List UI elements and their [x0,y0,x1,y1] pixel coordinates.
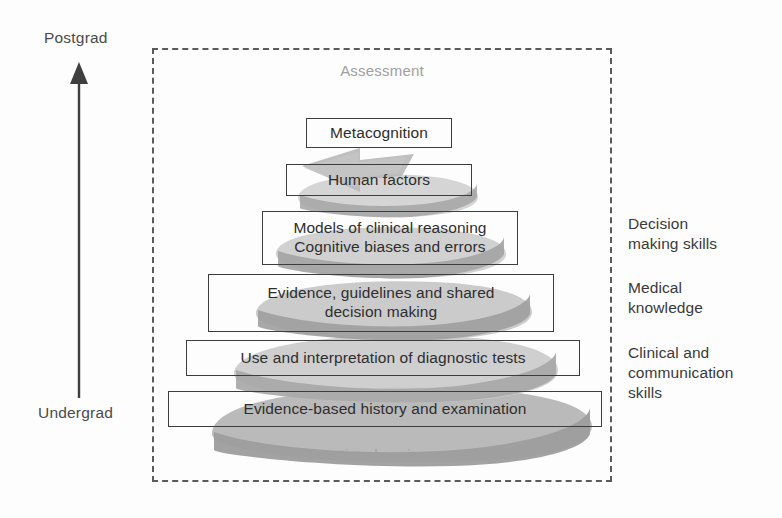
side-label-clinical-and-communication-skills: Clinical and communication skills [628,343,734,402]
axis-top-label: Postgrad [44,29,108,47]
assessment-label: Assessment [152,62,612,79]
layer-label: Evidence, guidelines and shared decision… [267,284,494,322]
layer-label: Evidence-based history and examination [244,400,527,419]
up-arrow-icon [60,58,100,398]
layer-label: Models of clinical reasoning Cognitive b… [293,219,486,257]
side-label-decision-making-skills: Decision making skills [628,214,717,254]
layer-box-diagnostic-tests[interactable]: Use and interpretation of diagnostic tes… [186,340,580,376]
educational-environment-label: Educational environment [152,446,612,463]
layer-label: Use and interpretation of diagnostic tes… [240,349,525,368]
layer-box-metacognition[interactable]: Metacognition [306,118,452,148]
layer-label: Human factors [328,171,430,190]
diagram-canvas: Postgrad Undergrad Assessment [0,0,782,518]
axis-bottom-label: Undergrad [38,404,113,422]
layer-box-history-and-examination[interactable]: Evidence-based history and examination [168,391,602,427]
layer-label: Metacognition [330,124,428,143]
layer-box-human-factors[interactable]: Human factors [286,164,472,196]
layer-box-evidence-guidelines[interactable]: Evidence, guidelines and shared decision… [208,274,554,332]
layer-box-models-of-clinical-reasoning[interactable]: Models of clinical reasoning Cognitive b… [262,211,518,265]
side-label-medical-knowledge: Medical knowledge [628,278,703,318]
